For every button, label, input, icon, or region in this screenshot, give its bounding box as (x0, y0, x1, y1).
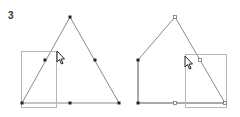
selection-marquee (22, 52, 57, 108)
midpoint-left[interactable] (44, 59, 47, 62)
modified-shape-figure (137, 16, 227, 108)
shape-edge-top (138, 17, 225, 103)
open-point-apex[interactable] (174, 16, 177, 19)
vertex-point-bottom-right[interactable] (118, 102, 121, 105)
vertex-point-apex[interactable] (69, 16, 72, 19)
midpoint-right[interactable] (94, 59, 97, 62)
open-midpoint-bottom[interactable] (174, 102, 177, 105)
open-midpoint-right[interactable] (199, 59, 202, 62)
open-point-bottom-right[interactable] (224, 102, 227, 105)
midpoint-bottom[interactable] (69, 102, 72, 105)
vertex-point-bottom-left[interactable] (137, 102, 140, 105)
cursor-arrow-icon (185, 56, 193, 69)
triangle-outline (22, 17, 119, 103)
cursor-arrow-icon (57, 51, 65, 64)
vertex-point-bottom-left[interactable] (21, 102, 24, 105)
vertex-point-left-upper[interactable] (137, 59, 140, 62)
diagram-canvas (0, 0, 240, 117)
triangle-figure (21, 16, 121, 108)
